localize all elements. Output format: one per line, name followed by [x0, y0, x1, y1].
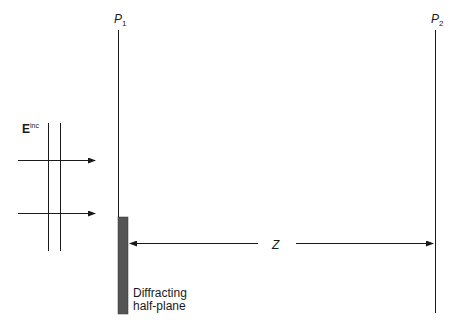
- incident-field-superscript: inc: [30, 122, 39, 129]
- plane-p2-letter: P: [431, 12, 439, 26]
- diffraction-diagram: [0, 0, 455, 330]
- distance-label: Z: [272, 238, 279, 252]
- half-plane-label: Diffracting half-plane: [133, 287, 187, 313]
- plane-p1-subscript: 1: [122, 19, 126, 28]
- plane-p2-label: P2: [431, 12, 443, 28]
- incident-field-label: Einc: [22, 122, 39, 136]
- plane-p1-label: P1: [114, 12, 126, 28]
- plane-p1-letter: P: [114, 12, 122, 26]
- half-plane-label-line2: half-plane: [133, 300, 187, 313]
- plane-p2-subscript: 2: [439, 19, 443, 28]
- diffracting-half-plane: [118, 217, 128, 314]
- incident-field-letter: E: [22, 122, 30, 136]
